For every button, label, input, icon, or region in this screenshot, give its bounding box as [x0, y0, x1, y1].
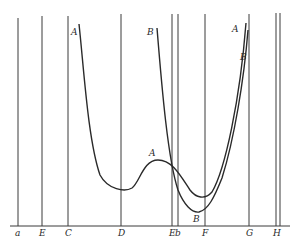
curve-label: A	[70, 27, 78, 37]
curve-label: B	[239, 52, 247, 62]
curve-label: B	[192, 214, 200, 224]
axis-label: G	[246, 228, 253, 238]
axis-label: E	[38, 228, 46, 238]
axis-label: C	[65, 228, 72, 238]
axis-labels: aECDEbFGH	[15, 228, 281, 238]
curve-label: A	[231, 24, 239, 34]
axis-label: D	[117, 228, 125, 238]
axis-label: H	[272, 228, 281, 238]
axis-label: a	[15, 228, 20, 238]
curve-label: B	[146, 27, 154, 37]
curve-a	[79, 23, 246, 197]
diagram-canvas: aECDEbFGH ABABAB	[0, 0, 294, 243]
axis-label: b	[175, 228, 181, 238]
vertical-lines	[18, 13, 280, 226]
curve-b	[157, 28, 248, 212]
axis-label: F	[201, 228, 209, 238]
curve-label: A	[148, 148, 156, 158]
